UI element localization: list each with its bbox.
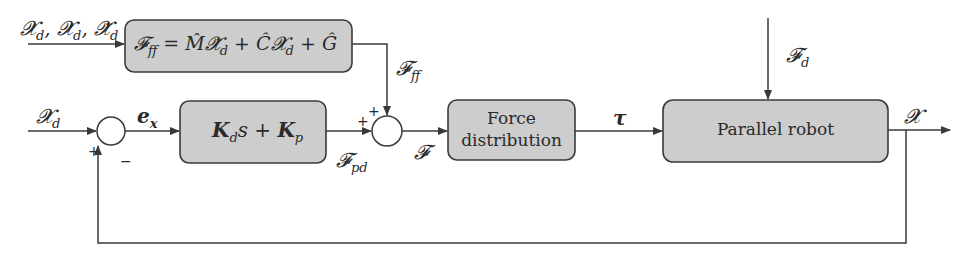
feedforward-equation: 𝓕ff = M̂𝓧̈d + Ĉ𝓧̇d + Ĝ	[134, 34, 337, 57]
f-ff-label: 𝓕ff	[396, 58, 420, 82]
f-pd-label: 𝓕pd	[336, 150, 368, 174]
ref-input-label: 𝓧d	[36, 106, 60, 130]
j1-plus-sign: +	[88, 144, 100, 158]
summing-junction-error	[97, 117, 125, 145]
j2-plus-top-sign: +	[368, 104, 380, 118]
parallel-robot-label: Parallel robot	[663, 121, 888, 138]
output-label: 𝓧	[904, 106, 920, 126]
tau-label: τ	[613, 108, 626, 128]
pd-controller-label: Kds + Kp	[212, 120, 303, 144]
f-total-label: 𝓕	[414, 142, 429, 162]
error-label: ex	[137, 106, 158, 130]
j2-plus-left-sign: +	[357, 114, 369, 128]
ff-input-label: 𝓧d, 𝓧̇d, 𝓧̈d	[20, 18, 118, 42]
j1-minus-sign: −	[120, 154, 132, 168]
force-distribution-label: Force distribution	[448, 107, 575, 151]
summing-junction-force	[372, 116, 402, 146]
disturbance-label: 𝓕d	[786, 45, 809, 69]
